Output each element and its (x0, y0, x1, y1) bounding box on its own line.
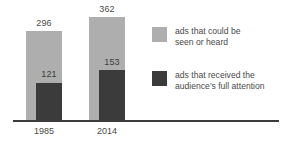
bar-dark-2014 (99, 70, 125, 120)
value-label-light-2014: 362 (89, 5, 125, 14)
legend-label-full-attention: ads that received the audience's full at… (175, 70, 265, 92)
legend-label-seen-or-heard: ads that could be seen or heard (175, 26, 240, 48)
value-label-dark-1985: 121 (36, 70, 62, 79)
axis-baseline (13, 120, 279, 122)
bar-chart: 296 121 362 153 1985 2014 ads that could… (0, 0, 286, 143)
bar-dark-1985 (36, 83, 62, 120)
axis-tick-1985: 1985 (22, 126, 66, 136)
legend-item-full-attention: ads that received the audience's full at… (152, 70, 286, 92)
axis-tick-2014: 2014 (85, 126, 129, 136)
chart-legend: ads that could be seen or heard ads that… (152, 26, 286, 114)
legend-swatch-icon-light (152, 27, 167, 42)
legend-item-seen-or-heard: ads that could be seen or heard (152, 26, 286, 48)
legend-swatch-icon-dark (152, 71, 167, 86)
value-label-dark-2014: 153 (99, 58, 125, 67)
value-label-light-1985: 296 (26, 19, 62, 28)
